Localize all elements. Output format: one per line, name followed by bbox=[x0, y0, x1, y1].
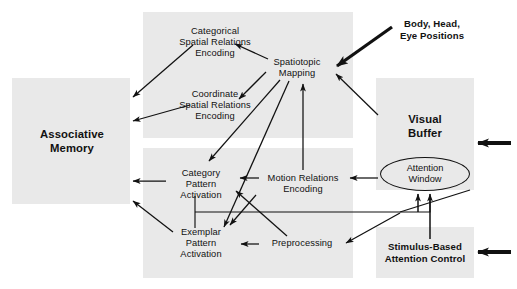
node-preprocessing: Preprocessing bbox=[262, 238, 342, 249]
node-stimulus-based-attention-control: Stimulus-Based Attention Control bbox=[379, 241, 471, 265]
node-categorical-spatial-relations-encoding: Categorical Spatial Relations Encoding bbox=[156, 26, 274, 60]
node-coordinate-spatial-relations-encoding: Coordinate Spatial Relations Encoding bbox=[156, 89, 274, 123]
node-body-head-eye-positions: Body, Head, Eye Positions bbox=[392, 18, 472, 42]
node-exemplar-pattern-activation: Exemplar Pattern Activation bbox=[166, 227, 236, 261]
diagram-canvas: Associative Memory Categorical Spatial R… bbox=[0, 0, 517, 289]
node-associative-memory: Associative Memory bbox=[28, 127, 116, 155]
node-spatiotopic-mapping: Spatiotopic Mapping bbox=[264, 57, 330, 79]
arrow-attention-window-feedback bbox=[400, 190, 470, 212]
node-category-pattern-activation: Category Pattern Activation bbox=[166, 168, 236, 202]
node-visual-buffer: Visual Buffer bbox=[392, 112, 458, 140]
node-motion-relations-encoding: Motion Relations Encoding bbox=[261, 173, 345, 195]
node-attention-window: Attention Window bbox=[380, 157, 470, 191]
